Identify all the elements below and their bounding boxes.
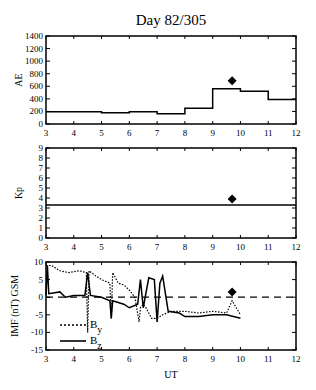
y-tick-label: 1	[39, 223, 44, 233]
series-by	[46, 266, 240, 333]
x-tick-label: 4	[72, 128, 77, 138]
x-tick-label: 10	[236, 354, 246, 364]
x-tick-label: 9	[210, 242, 215, 252]
x-tick-label: 5	[99, 128, 104, 138]
x-tick-label: 4	[72, 354, 77, 364]
y-tick-label: 600	[30, 81, 44, 91]
y-axis-label: IMF (nT) GSM	[9, 275, 21, 337]
y-axis-label: AE	[13, 73, 24, 86]
y-tick-label: 7	[39, 163, 44, 173]
y-tick-label: 1200	[25, 44, 44, 54]
plot-frame	[46, 148, 296, 238]
x-tick-label: 6	[127, 242, 132, 252]
x-tick-label: 12	[292, 354, 301, 364]
x-tick-label: 5	[99, 242, 104, 252]
x-tick-label: 8	[183, 128, 188, 138]
series-bz	[46, 266, 240, 322]
x-tick-label: 8	[183, 354, 188, 364]
diamond-marker-icon	[228, 287, 237, 296]
y-tick-label: 5	[39, 183, 44, 193]
x-tick-label: 11	[264, 242, 273, 252]
x-tick-label: 10	[236, 128, 246, 138]
y-tick-label: 200	[30, 106, 44, 116]
y-tick-label: -10	[31, 327, 43, 337]
figure-title: Day 82/305	[136, 12, 206, 28]
x-tick-label: 5	[99, 354, 104, 364]
x-tick-label: 7	[155, 242, 160, 252]
series-ae-hourly	[46, 89, 296, 114]
y-tick-label: 0	[39, 119, 44, 129]
x-axis-label: UT	[164, 369, 177, 380]
x-tick-label: 3	[44, 242, 49, 252]
x-tick-label: 12	[292, 242, 301, 252]
panel-1: 34567891011120200400600800100012001400AE	[13, 31, 301, 138]
diamond-marker-icon	[228, 76, 237, 85]
y-tick-label: 9	[39, 143, 44, 153]
y-tick-label: 800	[30, 69, 44, 79]
y-tick-label: 3	[39, 203, 44, 213]
x-tick-label: 6	[127, 128, 132, 138]
y-tick-label: 1000	[25, 56, 44, 66]
diamond-marker-icon	[228, 195, 237, 204]
plot-frame	[46, 36, 296, 124]
x-tick-label: 11	[264, 354, 273, 364]
panel-3: 3456789101112-15-10-50510IMF (nT) GSMByB…	[9, 257, 301, 364]
y-tick-label: 10	[34, 257, 44, 267]
y-tick-label: 6	[39, 173, 44, 183]
x-tick-label: 4	[72, 242, 77, 252]
x-tick-label: 7	[155, 128, 160, 138]
x-tick-label: 10	[236, 242, 246, 252]
y-tick-label: 5	[39, 275, 44, 285]
y-tick-label: 8	[39, 153, 44, 163]
panels: 34567891011120200400600800100012001400AE…	[9, 31, 301, 364]
plot-frame	[46, 262, 296, 350]
y-tick-label: -15	[31, 345, 43, 355]
x-tick-label: 9	[210, 128, 215, 138]
x-tick-label: 6	[127, 354, 132, 364]
y-tick-label: 400	[30, 94, 44, 104]
figure: Day 82/305 34567891011120200400600800100…	[0, 0, 316, 390]
x-tick-label: 11	[264, 128, 273, 138]
x-tick-label: 9	[210, 354, 215, 364]
legend-label-y: By	[90, 318, 102, 335]
x-tick-label: 3	[44, 128, 49, 138]
y-tick-label: 4	[39, 193, 44, 203]
y-tick-label: -5	[36, 310, 44, 320]
legend-label-z: Bz	[90, 334, 102, 351]
y-tick-label: 1400	[25, 31, 44, 41]
panel-2: 34567891011120123456789Kp	[13, 143, 301, 252]
legend: ByBz	[60, 318, 102, 351]
x-tick-label: 3	[44, 354, 49, 364]
x-tick-label: 7	[155, 354, 160, 364]
y-tick-label: 2	[39, 213, 44, 223]
x-tick-label: 8	[183, 242, 188, 252]
y-tick-label: 0	[39, 292, 44, 302]
y-tick-label: 0	[39, 233, 44, 243]
x-tick-label: 12	[292, 128, 301, 138]
y-axis-label: Kp	[13, 187, 24, 199]
